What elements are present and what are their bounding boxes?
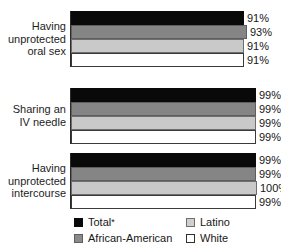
legend-swatch (74, 218, 83, 227)
bar (71, 102, 256, 116)
category-label-line: Having (0, 20, 66, 33)
bar-row: 91% (71, 11, 281, 25)
category-label-line: unprotected (0, 33, 66, 46)
category-label: Havingunprotectedoral sex (0, 11, 70, 67)
legend-item[interactable]: African-American (74, 232, 186, 244)
bar-row: 91% (71, 53, 281, 67)
bar-chart: Havingunprotectedoral sex91%93%91%91%Sha… (0, 0, 281, 251)
chart-legend: Total*LatinoAfrican-AmericanWhite (74, 214, 274, 246)
bar-value-label: 91% (244, 13, 269, 24)
bar-value-label: 99% (256, 155, 281, 166)
category-label: Havingunprotectedintercourse (0, 153, 70, 209)
category-label-line: IV needle (0, 116, 66, 129)
bar-value-label: 99% (256, 197, 281, 208)
bar-group: Havingunprotectedoral sex91%93%91%91% (0, 11, 281, 67)
bar (71, 11, 244, 25)
bar-group: Sharing anIV needle99%99%99%99% (0, 88, 281, 144)
legend-label: Latino (200, 216, 230, 228)
bar-value-label: 91% (244, 55, 269, 66)
category-label-line: Having (0, 162, 66, 175)
bar-value-label: 99% (256, 104, 281, 115)
bars-column: 99%99%100%99% (70, 153, 281, 209)
bar-group: Havingunprotectedintercourse99%99%100%99… (0, 153, 281, 209)
category-label-line: oral sex (0, 45, 66, 58)
category-label-line: intercourse (0, 187, 66, 200)
bar-row: 99% (71, 195, 281, 209)
bar (71, 116, 256, 130)
bar-value-label: 100% (257, 183, 281, 194)
legend-item[interactable]: White (186, 232, 274, 244)
bar-row: 93% (71, 25, 281, 39)
bar (71, 25, 247, 39)
bar-value-label: 99% (256, 118, 281, 129)
bar (71, 39, 244, 53)
bar-row: 100% (71, 181, 281, 195)
legend-swatch (186, 218, 195, 227)
bar-row: 99% (71, 130, 281, 144)
bar (71, 53, 244, 67)
bar (71, 130, 256, 144)
bar-row: 91% (71, 39, 281, 53)
legend-item[interactable]: Latino (186, 216, 274, 228)
bar (71, 153, 256, 167)
legend-footnote-marker: * (111, 218, 115, 227)
bar-value-label: 99% (256, 132, 281, 143)
bar-row: 99% (71, 167, 281, 181)
legend-swatch (186, 234, 195, 243)
bar-value-label: 91% (244, 41, 269, 52)
legend-item[interactable]: Total* (74, 216, 186, 228)
category-label: Sharing anIV needle (0, 88, 70, 144)
bar-row: 99% (71, 153, 281, 167)
bar-row: 99% (71, 116, 281, 130)
legend-label: Total (88, 216, 111, 228)
legend-label: White (200, 232, 228, 244)
bars-column: 99%99%99%99% (70, 88, 281, 144)
bar-value-label: 99% (256, 90, 281, 101)
category-label-line: unprotected (0, 175, 66, 188)
bar (71, 88, 256, 102)
legend-swatch (74, 234, 83, 243)
bar-row: 99% (71, 102, 281, 116)
category-label-line: Sharing an (0, 103, 66, 116)
bar-value-label: 93% (247, 27, 272, 38)
bar (71, 181, 257, 195)
bar (71, 167, 256, 181)
bar-value-label: 99% (256, 169, 281, 180)
legend-label: African-American (88, 232, 172, 244)
bars-column: 91%93%91%91% (70, 11, 281, 67)
bar-row: 99% (71, 88, 281, 102)
bar (71, 195, 256, 209)
